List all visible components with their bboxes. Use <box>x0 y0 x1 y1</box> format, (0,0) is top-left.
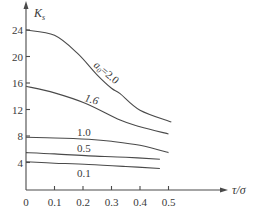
curve-label-0-5: 0.5 <box>77 142 91 154</box>
curve-label-1-6: 1.6 <box>83 91 100 106</box>
x-tick-label: 0.4 <box>133 196 147 208</box>
x-tick-label: 0.3 <box>105 196 119 208</box>
curve-0-1 <box>26 162 160 169</box>
y-tick-label: 16 <box>12 77 24 89</box>
y-tick-label: 20 <box>12 51 24 63</box>
x-axis-label: τ/σ <box>232 183 247 197</box>
x-tick-label: 0 <box>23 196 29 208</box>
y-tick-label: 4 <box>18 157 24 169</box>
y-tick-label: 8 <box>18 130 24 142</box>
curve-a0-2-0 <box>26 30 171 122</box>
x-tick-label: 0.1 <box>48 196 62 208</box>
ks-vs-tau-sigma-chart: Ks 4812162024 τ/σ 00.10.20.30.40.5 a0=2.… <box>0 0 258 217</box>
x-tick-label: 0.5 <box>162 196 176 208</box>
curve-label-1-0: 1.0 <box>77 126 91 138</box>
y-tick-label: 24 <box>12 24 24 36</box>
curve-labels: a0=2.0 1.6 1.0 0.5 0.1 <box>77 58 122 179</box>
x-ticks: 00.10.20.30.40.5 <box>23 186 176 208</box>
curve-label-0-1: 0.1 <box>77 167 91 179</box>
y-axis-arrow-icon <box>24 1 29 9</box>
x-axis-arrow-icon <box>220 188 228 193</box>
y-ticks: 4812162024 <box>12 24 30 169</box>
y-tick-label: 12 <box>12 104 23 116</box>
y-axis-label: Ks <box>33 6 45 22</box>
x-axis: τ/σ 00.10.20.30.40.5 <box>23 183 246 208</box>
curve-1-0 <box>26 137 169 152</box>
curve-0-5 <box>26 153 160 160</box>
x-tick-label: 0.2 <box>76 196 90 208</box>
